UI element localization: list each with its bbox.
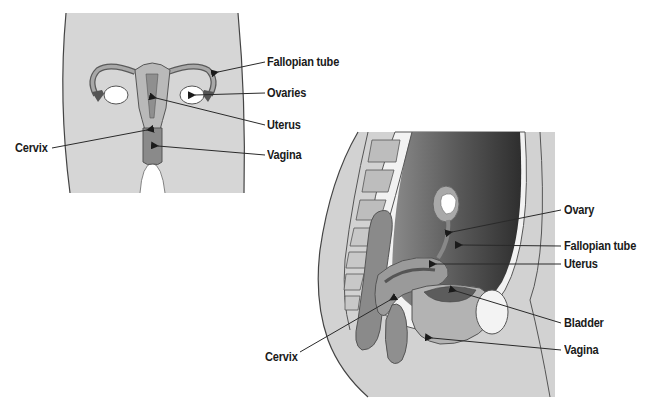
label-sagittal-ovary: Ovary [564, 203, 594, 217]
label-sagittal-bladder: Bladder [564, 316, 604, 330]
label-front-fallopian-tube: Fallopian tube [267, 55, 339, 69]
front-view [52, 13, 265, 193]
label-front-ovaries: Ovaries [267, 86, 306, 100]
sagittal-vagina [385, 304, 407, 364]
front-ovary-left [104, 86, 128, 104]
label-sagittal-fallopian-tube: Fallopian tube [564, 239, 636, 253]
label-sagittal-uterus: Uterus [564, 257, 598, 271]
label-front-cervix: Cervix [15, 141, 48, 155]
label-sagittal-cervix: Cervix [265, 350, 298, 364]
reproductive-anatomy-diagram: Fallopian tube Ovaries Uterus Cervix Vag… [0, 0, 650, 412]
label-front-vagina: Vagina [267, 148, 301, 162]
label-front-uterus: Uterus [267, 118, 301, 132]
label-sagittal-vagina: Vagina [564, 343, 598, 357]
sagittal-view [300, 132, 561, 397]
